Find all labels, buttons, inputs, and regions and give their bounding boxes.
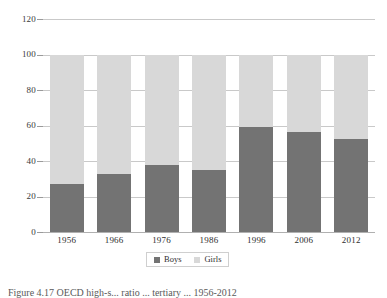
bar-segment-girls-1986: [192, 55, 226, 170]
y-tick-label-80: 80: [27, 86, 36, 95]
y-axis: 020406080100120: [0, 0, 36, 298]
bar-group-2006: [287, 55, 321, 233]
bar-segment-girls-1966: [97, 55, 131, 175]
bar-group-1976: [145, 55, 179, 233]
bar-group-1966: [97, 55, 131, 233]
x-tick-label-1966: 1966: [90, 234, 137, 246]
chart-legend: BoysGirls: [146, 252, 229, 267]
bar-segment-boys-2012: [334, 139, 368, 232]
stacked-bar-chart: 020406080100120 195619661976198619962006…: [0, 0, 387, 298]
x-tick-label-1986: 1986: [185, 234, 232, 246]
x-axis-labels: 1956196619761986199620062012: [43, 234, 375, 248]
bar-segment-boys-1996: [239, 127, 273, 232]
bars-layer: [43, 19, 375, 232]
bar-segment-girls-1956: [50, 55, 84, 185]
bar-segment-girls-1976: [145, 55, 179, 165]
legend-swatch-icon-girls: [194, 257, 200, 263]
bar-segment-boys-1976: [145, 165, 179, 232]
bar-segment-boys-1956: [50, 184, 84, 232]
x-tick-label-1976: 1976: [138, 234, 185, 246]
x-tick-label-1956: 1956: [43, 234, 90, 246]
bar-group-1996: [239, 55, 273, 233]
bar-group-1986: [192, 55, 226, 233]
bar-segment-boys-2006: [287, 132, 321, 232]
bar-group-1956: [50, 55, 84, 233]
legend-label-girls: Girls: [204, 255, 221, 264]
bar-segment-girls-1996: [239, 55, 273, 128]
y-tick-label-100: 100: [22, 50, 36, 59]
y-tick-label-120: 120: [22, 15, 36, 24]
bar-segment-girls-2012: [334, 55, 368, 139]
bar-group-2012: [334, 55, 368, 233]
legend-item-boys: Boys: [154, 255, 181, 264]
y-tick-label-20: 20: [27, 192, 36, 201]
y-tick-label-0: 0: [31, 228, 36, 237]
x-tick-label-2006: 2006: [280, 234, 327, 246]
x-tick-label-2012: 2012: [328, 234, 375, 246]
y-tick-label-40: 40: [27, 157, 36, 166]
figure-caption: Figure 4.17 OECD high-s... ratio ... ter…: [8, 286, 387, 298]
gridline-0: [43, 232, 375, 233]
bar-segment-girls-2006: [287, 55, 321, 132]
legend-label-boys: Boys: [164, 255, 181, 264]
x-tick-label-1996: 1996: [233, 234, 280, 246]
bar-segment-boys-1986: [192, 170, 226, 232]
legend-swatch-icon-boys: [154, 257, 160, 263]
y-tick-label-60: 60: [27, 121, 36, 130]
bar-segment-boys-1966: [97, 174, 131, 232]
legend-item-girls: Girls: [194, 255, 221, 264]
